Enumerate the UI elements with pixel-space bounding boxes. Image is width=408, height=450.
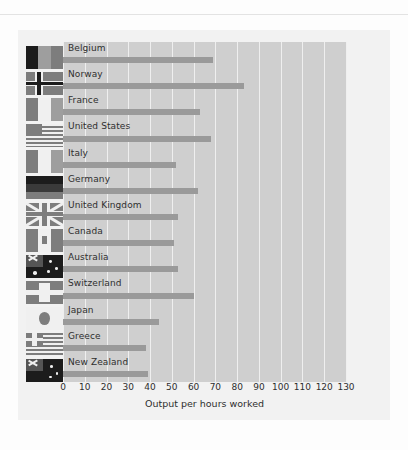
bar-label-canada: Canada bbox=[68, 226, 103, 236]
top-divider bbox=[0, 14, 408, 15]
x-tick-100: 100 bbox=[272, 382, 289, 392]
flag-japan-icon-art bbox=[26, 307, 63, 330]
chart-row: Italy bbox=[63, 147, 346, 173]
chart-row: Norway bbox=[63, 68, 346, 94]
bar-united-kingdom bbox=[63, 214, 178, 220]
bar-japan bbox=[63, 319, 159, 325]
bar-italy bbox=[63, 162, 176, 168]
flag-switzerland-icon-art bbox=[26, 281, 63, 304]
flag-united-kingdom-icon bbox=[26, 203, 63, 226]
flag-norway-icon-art bbox=[26, 72, 63, 95]
bar-label-belgium: Belgium bbox=[68, 43, 106, 53]
flag-norway-icon bbox=[26, 72, 63, 95]
x-tick-40: 40 bbox=[144, 382, 155, 392]
bar-greece bbox=[63, 345, 146, 351]
chart-row: Switzerland bbox=[63, 277, 346, 303]
x-tick-80: 80 bbox=[231, 382, 242, 392]
flag-italy-icon bbox=[26, 150, 63, 173]
flag-column bbox=[26, 42, 63, 382]
x-axis-ticks: 0102030405060708090100110120130 bbox=[63, 382, 346, 396]
bar-france bbox=[63, 109, 200, 115]
gridline bbox=[346, 42, 347, 382]
chart-row: United Kingdom bbox=[63, 199, 346, 225]
flag-united-states-icon bbox=[26, 124, 63, 147]
bar-label-italy: Italy bbox=[68, 148, 88, 158]
flag-switzerland-icon bbox=[26, 281, 63, 304]
x-axis-title: Output per hours worked bbox=[63, 398, 346, 409]
x-tick-30: 30 bbox=[123, 382, 134, 392]
bar-label-greece: Greece bbox=[68, 331, 101, 341]
flag-germany-icon-art bbox=[26, 176, 63, 199]
x-tick-0: 0 bbox=[60, 382, 66, 392]
chart-row: Canada bbox=[63, 225, 346, 251]
flag-belgium-icon-art bbox=[26, 46, 63, 69]
bar-new-zealand bbox=[63, 371, 148, 377]
chart-row: Australia bbox=[63, 251, 346, 277]
flag-france-icon bbox=[26, 98, 63, 121]
bar-label-japan: Japan bbox=[68, 305, 94, 315]
chart-row: Germany bbox=[63, 173, 346, 199]
x-tick-110: 110 bbox=[294, 382, 311, 392]
x-tick-130: 130 bbox=[337, 382, 354, 392]
flag-greece-icon-art bbox=[26, 333, 63, 356]
flag-united-kingdom-icon-art bbox=[26, 203, 63, 226]
chart-row: United States bbox=[63, 120, 346, 146]
bar-australia bbox=[63, 266, 178, 272]
bar-germany bbox=[63, 188, 198, 194]
bar-canada bbox=[63, 240, 174, 246]
x-tick-70: 70 bbox=[210, 382, 221, 392]
flag-canada-icon bbox=[26, 229, 63, 252]
bar-label-norway: Norway bbox=[68, 69, 103, 79]
bar-norway bbox=[63, 83, 244, 89]
flag-australia-icon-art bbox=[26, 255, 63, 278]
bar-united-states bbox=[63, 136, 211, 142]
bar-label-switzerland: Switzerland bbox=[68, 278, 122, 288]
chart-row: Greece bbox=[63, 330, 346, 356]
chart-page: BelgiumNorwayFranceUnited StatesItalyGer… bbox=[0, 0, 408, 450]
bar-belgium bbox=[63, 57, 213, 63]
x-tick-120: 120 bbox=[316, 382, 333, 392]
plot-area: BelgiumNorwayFranceUnited StatesItalyGer… bbox=[63, 42, 346, 382]
flag-united-states-icon-art bbox=[26, 124, 63, 147]
flag-belgium-icon bbox=[26, 46, 63, 69]
figure-panel: BelgiumNorwayFranceUnited StatesItalyGer… bbox=[18, 30, 390, 420]
chart-row: Belgium bbox=[63, 42, 346, 68]
chart-row: France bbox=[63, 94, 346, 120]
flag-greece-icon bbox=[26, 333, 63, 356]
flag-japan-icon bbox=[26, 307, 63, 330]
flag-new-zealand-icon bbox=[26, 359, 63, 382]
flag-italy-icon-art bbox=[26, 150, 63, 173]
x-tick-90: 90 bbox=[253, 382, 264, 392]
bar-switzerland bbox=[63, 293, 194, 299]
bar-label-france: France bbox=[68, 95, 99, 105]
flag-france-icon-art bbox=[26, 98, 63, 121]
flag-germany-icon bbox=[26, 176, 63, 199]
chart-row: New Zealand bbox=[63, 356, 346, 382]
flag-australia-icon bbox=[26, 255, 63, 278]
x-tick-60: 60 bbox=[188, 382, 199, 392]
bar-label-united-kingdom: United Kingdom bbox=[68, 200, 142, 210]
flag-new-zealand-icon-art bbox=[26, 359, 63, 382]
bar-label-united-states: United States bbox=[68, 121, 130, 131]
chart-row: Japan bbox=[63, 304, 346, 330]
bar-label-germany: Germany bbox=[68, 174, 110, 184]
x-tick-50: 50 bbox=[166, 382, 177, 392]
bar-label-new-zealand: New Zealand bbox=[68, 357, 128, 367]
flag-canada-icon-art bbox=[26, 229, 63, 252]
bar-label-australia: Australia bbox=[68, 252, 109, 262]
x-tick-20: 20 bbox=[101, 382, 112, 392]
x-tick-10: 10 bbox=[79, 382, 90, 392]
